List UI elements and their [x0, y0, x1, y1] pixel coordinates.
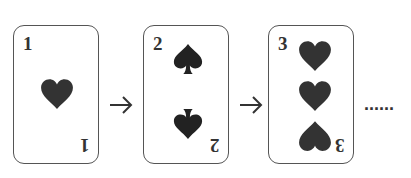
heart-icon	[298, 120, 332, 152]
card-1: 1 1	[13, 25, 99, 164]
spade-icon	[171, 43, 205, 75]
card-3: 3 3	[268, 25, 354, 164]
card-rank-top: 2	[153, 34, 163, 53]
card-rank-top: 1	[23, 34, 33, 53]
card-2: 2 2	[143, 25, 229, 164]
spade-icon	[171, 108, 205, 140]
arrow-right-icon	[238, 92, 264, 118]
continuation-dots: ......	[364, 94, 394, 115]
card-rank-bottom: 3	[335, 136, 345, 155]
card-rank-bottom: 2	[210, 136, 220, 155]
heart-icon	[298, 80, 332, 112]
heart-icon	[298, 40, 332, 72]
card-rank-top: 3	[278, 34, 288, 53]
arrow-right-icon	[108, 92, 134, 118]
card-rank-bottom: 1	[80, 136, 90, 155]
heart-icon	[40, 78, 74, 110]
